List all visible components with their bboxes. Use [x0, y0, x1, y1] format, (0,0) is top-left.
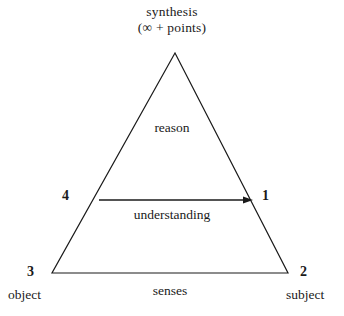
- node-number-1: 1: [262, 188, 269, 204]
- apex-caption-line2: (∞ + points): [0, 20, 344, 35]
- diagram-canvas: synthesis (∞ + points) reason understand…: [0, 0, 344, 316]
- apex-caption: synthesis (∞ + points): [0, 4, 344, 35]
- region-label-reason: reason: [0, 120, 344, 135]
- corner-label-object: object: [8, 287, 41, 302]
- corner-label-subject: subject: [286, 287, 324, 302]
- triangle-outline: [52, 53, 288, 273]
- region-label-understanding: understanding: [0, 207, 344, 222]
- node-number-2: 2: [300, 264, 307, 280]
- node-number-3: 3: [27, 264, 34, 280]
- apex-caption-line1: synthesis: [0, 4, 344, 19]
- node-number-4: 4: [62, 188, 69, 204]
- triangle-diagram-graphic: [0, 0, 344, 316]
